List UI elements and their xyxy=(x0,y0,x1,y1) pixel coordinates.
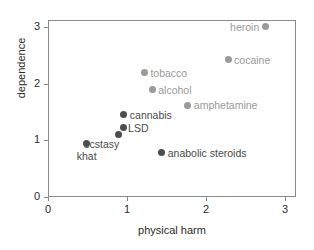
x-tick-label-0: 0 xyxy=(36,203,60,216)
data-point-amphetamine xyxy=(184,102,191,109)
y-tick-label-1: 1 xyxy=(22,133,40,146)
x-tick-label-2: 2 xyxy=(194,203,218,216)
y-axis-title: dependence xyxy=(15,8,27,128)
point-label-tobacco: tobacco xyxy=(150,67,187,79)
x-tick-label-1: 1 xyxy=(115,203,139,216)
point-label-heroin: heroin xyxy=(230,21,259,33)
point-label-khat: khat xyxy=(77,150,97,162)
point-label-cocaine: cocaine xyxy=(234,54,270,66)
y-tick-2 xyxy=(44,84,48,85)
point-label-anabolic-steroids: anabolic steroids xyxy=(168,147,247,159)
point-label-amphetamine: amphetamine xyxy=(194,99,258,111)
y-tick-label-0: 0 xyxy=(22,190,40,203)
x-tick-3 xyxy=(285,197,286,201)
point-label-alcohol: alcohol xyxy=(158,84,191,96)
plot-area-frame xyxy=(48,20,296,197)
y-tick-0 xyxy=(44,197,48,198)
y-tick-1 xyxy=(44,140,48,141)
x-axis-title: physical harm xyxy=(48,224,296,236)
y-tick-3 xyxy=(44,27,48,28)
x-tick-1 xyxy=(127,197,128,201)
data-point-cocaine xyxy=(225,56,232,63)
point-label-lsd: LSD xyxy=(128,122,148,134)
x-tick-label-3: 3 xyxy=(273,203,297,216)
data-point-ecstasy xyxy=(115,131,122,138)
scatter-chart: 0123 0123 heroincocainetobaccoalcoholamp… xyxy=(0,0,314,250)
point-label-cannabis: cannabis xyxy=(130,109,172,121)
data-point-lsd xyxy=(120,124,127,131)
x-tick-2 xyxy=(206,197,207,201)
x-tick-0 xyxy=(48,197,49,201)
